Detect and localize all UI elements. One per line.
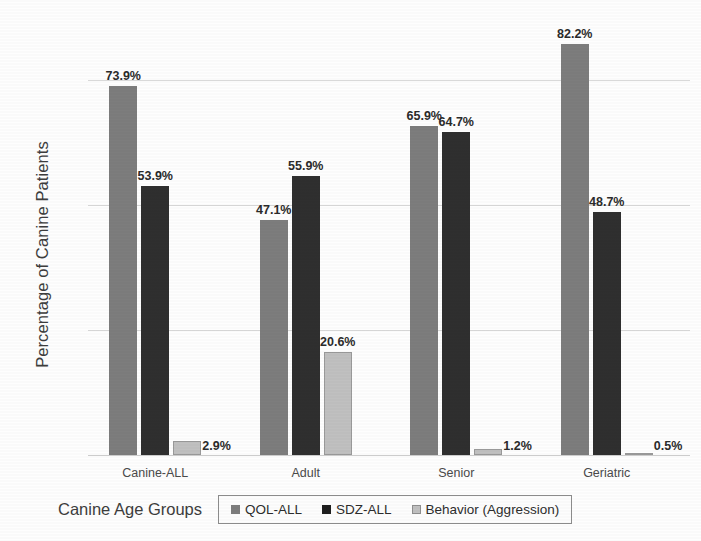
bottom-axis-row: Canine Age Groups QOL-ALLSDZ-ALLBehavior… [0,487,701,531]
legend-swatch-icon [412,505,421,514]
bar[interactable]: 73.9% [109,86,137,455]
bar-value-label: 47.1% [256,203,291,217]
bar-fill [324,352,352,455]
bar-fill [410,126,438,455]
bar[interactable]: 65.9% [410,126,438,455]
legend-label: Behavior (Aggression) [426,502,560,517]
bar[interactable]: 20.6% [324,352,352,455]
bar-fill [260,220,288,455]
bar-fill [625,453,653,455]
bar-value-label: 55.9% [288,159,323,173]
bar-chart-figure: Percentage of Canine Patients 0%25%50%75… [0,0,701,541]
bar[interactable]: 48.7% [593,212,621,455]
bar-fill [292,176,320,455]
bar-group: 73.9%53.9%2.9%Canine-ALL [88,18,239,455]
legend-swatch-icon [231,505,240,514]
x-tick-label: Senior [438,466,474,480]
legend-item[interactable]: QOL-ALL [231,502,302,517]
chart-legend: QOL-ALLSDZ-ALLBehavior (Aggression) [218,495,572,524]
bar-fill [474,449,502,455]
x-tick-label: Geriatric [583,466,630,480]
bar-value-label: 1.2% [503,439,532,453]
bar-value-label: 73.9% [106,69,141,83]
bar-fill [173,441,201,455]
plot-area: 0%25%50%75%73.9%53.9%2.9%Canine-ALL47.1%… [88,18,690,455]
bar-value-label: 20.6% [320,335,355,349]
legend-item[interactable]: Behavior (Aggression) [412,502,560,517]
bar[interactable]: 64.7% [442,132,470,455]
bar-value-label: 53.9% [138,169,173,183]
y-axis-title: Percentage of Canine Patients [33,45,52,465]
legend-item[interactable]: SDZ-ALL [322,502,392,517]
bar-value-label: 2.9% [202,439,231,453]
bar-value-label: 64.7% [439,115,474,129]
bar-value-label: 65.9% [407,109,442,123]
legend-label: SDZ-ALL [336,502,392,517]
bar-fill [593,212,621,455]
gridline-0% [88,455,690,456]
x-axis-title: Canine Age Groups [58,500,202,519]
bar-group: 65.9%64.7%1.2%Senior [389,18,540,455]
bar-group: 82.2%48.7%0.5%Geriatric [540,18,691,455]
x-tick-label: Canine-ALL [122,466,188,480]
legend-label: QOL-ALL [245,502,302,517]
bar[interactable]: 2.9% [173,441,201,455]
legend-swatch-icon [322,505,331,514]
bar-fill [561,44,589,455]
bar-fill [141,186,169,455]
bar[interactable]: 47.1% [260,220,288,455]
bar-value-label: 0.5% [654,439,683,453]
bar[interactable]: 0.5% [625,453,653,455]
bar-fill [442,132,470,455]
bar[interactable]: 55.9% [292,176,320,455]
bar[interactable]: 53.9% [141,186,169,455]
x-tick-label: Adult [292,466,321,480]
bar[interactable]: 1.2% [474,449,502,455]
bar-fill [109,86,137,455]
bar[interactable]: 82.2% [561,44,589,455]
bar-group: 47.1%55.9%20.6%Adult [239,18,390,455]
bar-value-label: 82.2% [557,27,592,41]
bar-value-label: 48.7% [589,195,624,209]
